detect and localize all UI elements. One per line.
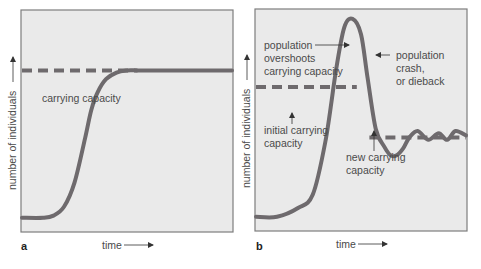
y-axis-title-b: number of individuals (240, 89, 252, 188)
y-axis-label-b: number of individuals (240, 55, 252, 188)
x-axis-title-b: time (336, 238, 356, 250)
annotation-crash-line3: or dieback (396, 75, 445, 87)
annotation-overshoot-line2: overshoots (264, 52, 315, 64)
annotation-overshoot-line1: population (264, 39, 313, 51)
annotation-crash-line1: population (396, 49, 445, 61)
annotation-crash-line2: crash, (396, 62, 425, 74)
carrying-capacity-label: carrying capacity (42, 92, 122, 104)
annotation-new-line1: new carrying (346, 151, 406, 163)
y-axis-label-a: number of individuals (6, 57, 18, 190)
figure: carrying capacity number of individuals … (0, 0, 481, 269)
annotation-overshoot-line3: carrying capacity (264, 65, 344, 77)
y-axis-title-a: number of individuals (6, 91, 18, 190)
panel-label-b: b (256, 240, 263, 252)
panel-label-a: a (21, 240, 28, 252)
panel-b: population overshoots carrying capacity … (240, 9, 467, 252)
x-axis-title-a: time (102, 239, 122, 251)
plot-area-a (21, 10, 233, 232)
panel-a: carrying capacity number of individuals … (6, 10, 233, 252)
annotation-initial-line2: capacity (264, 137, 303, 149)
annotation-initial-line1: initial carrying (264, 124, 328, 136)
annotation-new-line2: capacity (346, 164, 385, 176)
